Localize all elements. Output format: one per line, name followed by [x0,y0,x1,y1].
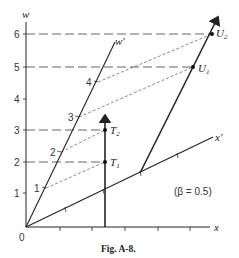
beta-annotation: (β = 0.5) [174,186,212,197]
point-u2 [210,32,214,36]
w-tick-label-5: 5 [14,62,20,73]
figure-caption: Fig. A-8. [101,244,136,254]
spacetime-diagram: 1 2 3 4 5 6 0 1 2 3 4 w x x′ w′ T1 T2 U1… [0,0,239,258]
w-prime-tick-label-3: 3 [68,112,74,123]
point-t1 [103,160,107,164]
x-axis-ticks [60,227,190,231]
t1-label: T1 [110,156,120,170]
w-axis-label: w [22,8,30,20]
point-t2 [103,128,107,132]
w-prime-axis [26,42,115,227]
horizontal-dashed-lines [26,34,212,162]
w-prime-tick-label-2: 2 [50,147,56,158]
w-tick-label-2: 2 [14,157,20,168]
x-prime-axis-label: x′ [214,131,223,143]
u2-label: U2 [216,27,228,41]
w-prime-tick-label-4: 4 [86,77,92,88]
point-u1 [191,65,195,69]
w-prime-axis-label: w′ [115,35,125,47]
w-tick-label-4: 4 [14,94,20,105]
w-tick-label-3: 3 [14,125,20,136]
u-worldline [140,17,218,173]
u1-label: U1 [198,62,209,76]
worldline-connectors [46,34,212,188]
t2-label: T2 [110,124,120,138]
w-tick-label-1: 1 [14,188,20,199]
x-axis-label: x [213,221,219,233]
w-tick-label-6: 6 [14,29,20,40]
origin-label: 0 [19,232,25,243]
w-prime-tick-label-1: 1 [34,183,40,194]
